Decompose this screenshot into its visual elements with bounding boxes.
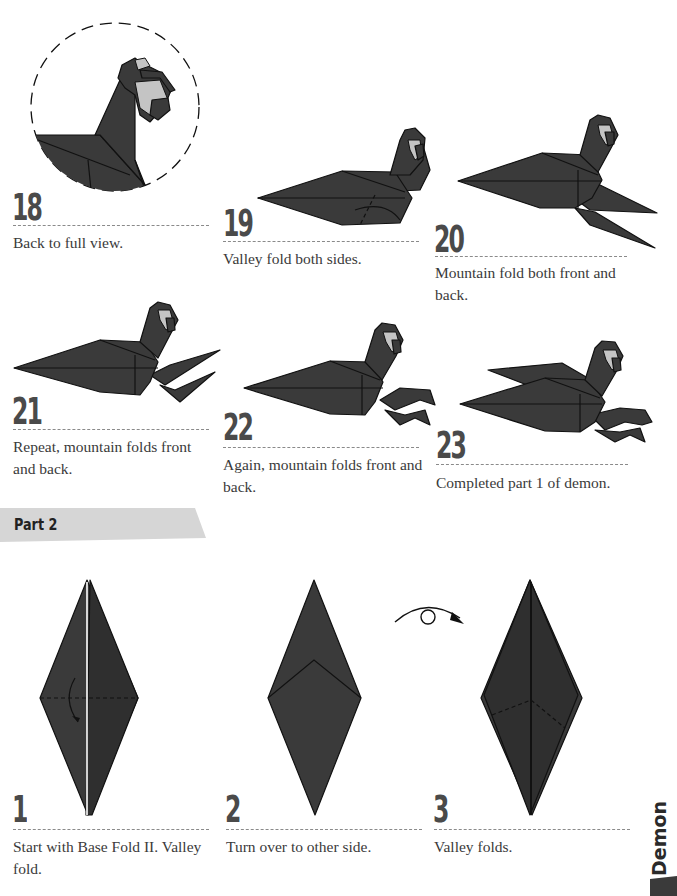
step-number: 1 <box>12 790 27 828</box>
step-instruction: Valley fold both sides. <box>223 248 423 270</box>
dashed-divider <box>226 829 422 830</box>
step-23-diagram <box>430 330 677 450</box>
step-number: 21 <box>12 392 41 430</box>
chapter-tab-label: Demon <box>648 806 670 876</box>
step-number: 2 <box>225 790 240 828</box>
step-instruction: Completed part 1 of demon. <box>436 472 656 494</box>
step-22-diagram <box>220 310 440 430</box>
part2-step-3-diagram <box>380 560 620 820</box>
dashed-divider <box>435 256 627 257</box>
step-instruction: Start with Base Fold II. Valley fold. <box>13 836 213 880</box>
dashed-divider <box>13 829 209 830</box>
dashed-divider <box>436 464 628 465</box>
part-2-label: Part 2 <box>14 516 57 534</box>
step-instruction: Turn over to other side. <box>226 836 426 858</box>
dashed-divider <box>13 429 209 430</box>
step-instruction: Back to full view. <box>13 232 213 254</box>
dashed-divider <box>223 241 419 242</box>
step-number: 19 <box>223 204 252 242</box>
step-instruction: Repeat, mountain folds front and back. <box>13 436 213 480</box>
step-18-diagram <box>0 0 230 200</box>
dashed-divider <box>13 225 209 226</box>
step-number: 23 <box>436 426 465 464</box>
step-number: 22 <box>223 408 252 446</box>
step-number: 3 <box>433 790 448 828</box>
dashed-divider <box>434 829 630 830</box>
part2-step-1-diagram <box>0 560 230 820</box>
chapter-tab-marker <box>650 876 677 896</box>
step-20-diagram <box>430 100 677 260</box>
step-instruction: Again, mountain folds front and back. <box>223 454 423 498</box>
part-2-banner: Part 2 <box>0 508 206 542</box>
step-19-diagram <box>220 120 440 230</box>
step-number: 20 <box>434 220 463 258</box>
step-instruction: Mountain fold both front and back. <box>435 262 635 306</box>
dashed-divider <box>223 447 419 448</box>
step-number: 18 <box>12 188 41 226</box>
step-instruction: Valley folds. <box>434 836 634 858</box>
